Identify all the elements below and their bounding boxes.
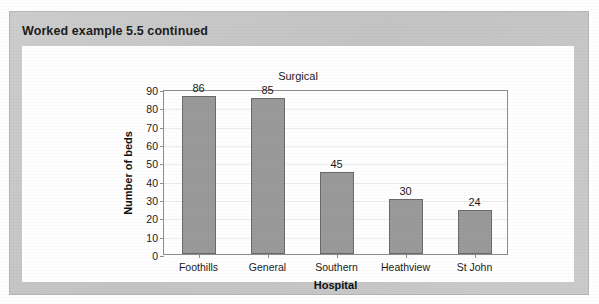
- y-tick-label: 50: [146, 158, 158, 170]
- bar-group: 30Heathview: [371, 91, 440, 254]
- bar: [320, 172, 354, 255]
- x-tick-mark: [475, 254, 476, 258]
- bar-group: 24St John: [440, 91, 509, 254]
- y-tick-label: 0: [152, 250, 158, 262]
- x-tick-mark: [337, 254, 338, 258]
- y-tick-label: 90: [146, 85, 158, 97]
- x-category-label: Heathview: [381, 261, 430, 273]
- y-tick-label: 80: [146, 103, 158, 115]
- x-tick-mark: [199, 254, 200, 258]
- y-tick-label: 20: [146, 213, 158, 225]
- bar-value-label: 24: [468, 196, 480, 208]
- bar: [182, 96, 216, 254]
- y-tick-mark: [160, 256, 164, 257]
- x-category-label: General: [249, 261, 286, 273]
- panel-header-title: Worked example 5.5 continued: [22, 20, 208, 42]
- bar-group: 86Foothills: [164, 91, 233, 254]
- chart-title: Surgical: [22, 70, 574, 82]
- x-tick-mark: [268, 254, 269, 258]
- chart-card: Surgical Number of beds 0102030405060708…: [22, 46, 574, 282]
- y-tick-label: 30: [146, 195, 158, 207]
- bar-value-label: 85: [261, 84, 273, 96]
- bar: [251, 98, 285, 254]
- bar-value-label: 45: [330, 158, 342, 170]
- bar: [458, 210, 492, 254]
- y-tick-label: 40: [146, 177, 158, 189]
- x-axis-title: Hospital: [163, 279, 508, 291]
- y-tick-label: 70: [146, 122, 158, 134]
- bar-value-label: 86: [192, 82, 204, 94]
- y-tick-label: 10: [146, 232, 158, 244]
- scanned-page: Worked example 5.5 continued Surgical Nu…: [0, 0, 599, 304]
- bar-group: 45Southern: [302, 91, 371, 254]
- plot-area: 0102030405060708090 86Foothills85General…: [163, 90, 508, 255]
- bar-value-label: 30: [399, 185, 411, 197]
- bar-series: 86Foothills85General45Southern30Heathvie…: [164, 91, 507, 254]
- y-tick-label: 60: [146, 140, 158, 152]
- y-axis-title: Number of beds: [120, 90, 136, 255]
- x-tick-mark: [406, 254, 407, 258]
- x-category-label: St John: [457, 261, 493, 273]
- bar-group: 85General: [233, 91, 302, 254]
- y-axis-title-text: Number of beds: [122, 131, 134, 215]
- worked-example-panel: Worked example 5.5 continued Surgical Nu…: [10, 12, 588, 294]
- x-category-label: Foothills: [179, 261, 218, 273]
- bar: [389, 199, 423, 254]
- x-category-label: Southern: [315, 261, 358, 273]
